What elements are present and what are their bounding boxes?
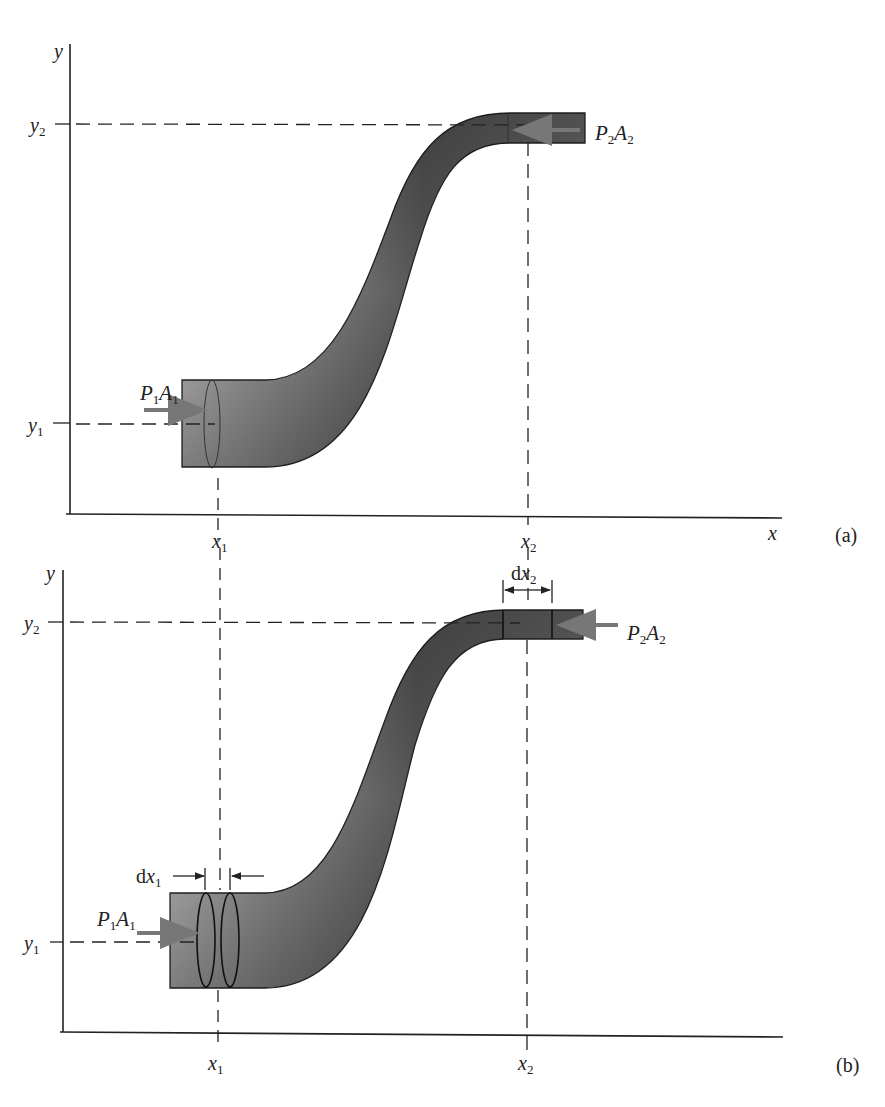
tick-y2-a: y2 [28,114,45,139]
y-axis-label-a: y [52,40,63,63]
dx1-label: dx1 [136,865,161,890]
dx2-label: dx2 [511,562,536,587]
outlet-force-label-a: P2A2 [594,121,634,147]
tick-y1-b: y1 [22,932,39,957]
tick-x1-a: x1 [211,530,227,555]
panel-b: y (b) y2 y1 x1 x2 dx2 dx1 [22,548,859,1077]
tick-x1-b: x1 [207,1052,223,1077]
tick-y1-a: y1 [26,414,43,439]
panel-caption-a: (a) [835,524,857,547]
inlet-force-label-b: P1A1 [96,907,136,933]
panel-a: y x (a) y2 y1 x1 x2 P1A1 P2A2 [26,40,857,555]
tick-x2-b: x2 [517,1052,533,1077]
outlet-force-label-b: P2A2 [626,621,666,647]
tick-y2-b: y2 [22,612,39,637]
y-axis-label-b: y [44,562,55,585]
x-axis-a [66,514,782,518]
x-axis-b [60,1032,783,1037]
panel-caption-b: (b) [836,1054,859,1077]
inlet-force-label-a: P1A1 [139,381,179,407]
x-axis-label-a: x [767,522,777,544]
